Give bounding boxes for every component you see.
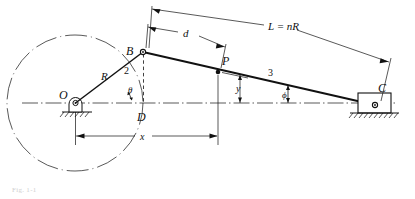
figure-caption: Fig. 1-1 bbox=[12, 186, 37, 194]
ground-left bbox=[60, 112, 92, 117]
label-link-3: 3 bbox=[268, 67, 273, 78]
label-point-c: C bbox=[378, 81, 387, 95]
label-point-b: B bbox=[126, 44, 134, 58]
label-point-o: O bbox=[59, 88, 68, 102]
label-angle-phi: ϕ bbox=[282, 90, 287, 100]
dimension-x bbox=[76, 75, 219, 145]
ground-right bbox=[349, 113, 399, 118]
label-point-p: P bbox=[221, 54, 230, 68]
label-dimension-l: L = nR bbox=[267, 20, 299, 32]
dimension-y bbox=[222, 73, 248, 104]
joint-b bbox=[140, 49, 145, 54]
label-link-2: 2 bbox=[124, 65, 129, 76]
label-dimension-x: x bbox=[139, 131, 145, 142]
crank-link-2 bbox=[76, 52, 144, 103]
coupler-link-3 bbox=[143, 52, 375, 105]
slider-block-c bbox=[358, 93, 391, 113]
label-point-d: D bbox=[136, 110, 146, 124]
label-radius-r: R bbox=[100, 70, 108, 82]
figure-root: O B D P C R 2 3 θ ϕ d L = nR y x Fig. 1-… bbox=[0, 0, 415, 199]
label-dimension-y: y bbox=[235, 83, 241, 94]
kinematic-diagram: O B D P C R 2 3 θ ϕ d L = nR y x bbox=[0, 0, 415, 199]
label-angle-theta: θ bbox=[128, 85, 133, 95]
label-dimension-d: d bbox=[183, 27, 189, 39]
joint-p bbox=[216, 70, 221, 75]
